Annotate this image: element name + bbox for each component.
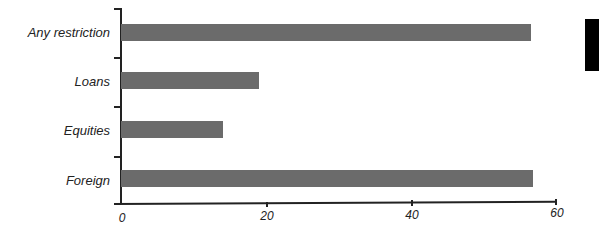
x-tick xyxy=(411,200,413,206)
bar-foreign xyxy=(121,170,533,187)
y-tick xyxy=(114,57,121,59)
category-label: Equities xyxy=(64,123,110,138)
x-tick-label: 40 xyxy=(405,208,418,222)
category-label: Foreign xyxy=(66,173,110,188)
x-tick-label: 60 xyxy=(550,206,563,220)
x-tick-label: 0 xyxy=(119,211,126,225)
bar-any-restriction xyxy=(121,24,531,41)
y-tick xyxy=(114,8,121,10)
bar-equities xyxy=(121,121,223,138)
black-marker xyxy=(585,19,599,71)
x-tick xyxy=(555,199,557,205)
y-tick xyxy=(114,156,121,158)
x-tick xyxy=(120,196,122,204)
bar-loans xyxy=(121,72,259,89)
y-tick xyxy=(114,106,121,108)
x-tick-label: 20 xyxy=(260,209,273,223)
category-label: Loans xyxy=(75,74,110,89)
x-axis xyxy=(114,201,556,205)
category-label: Any restriction xyxy=(28,25,110,40)
x-tick xyxy=(266,202,268,207)
